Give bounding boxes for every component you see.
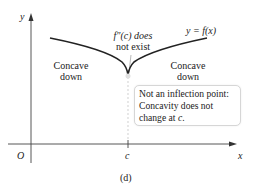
annotation-line1: f″(c) does <box>105 30 161 41</box>
right-concavity-line1: Concave <box>163 60 213 71</box>
figure-caption: (d) <box>120 172 132 183</box>
left-concavity-line1: Concave <box>46 60 96 71</box>
left-concavity-label: Concave down <box>46 60 96 82</box>
origin-label: O <box>17 150 24 161</box>
x-axis-arrow-icon <box>229 142 237 147</box>
annotation-line2: not exist <box>105 41 161 52</box>
right-concavity-label: Concave down <box>163 60 213 82</box>
note-line3-prefix: change at <box>139 112 178 123</box>
note-line3: change at c. <box>139 112 229 124</box>
note-line2: Concavity does not <box>139 100 229 112</box>
note-line3-suffix: . <box>182 112 184 123</box>
inflection-note-box: Not an inflection point: Concavity does … <box>134 85 241 126</box>
c-tick-label: c <box>125 150 129 161</box>
curve-label: y = f(x) <box>186 25 216 36</box>
annotation-fpp-not-exist: f″(c) does not exist <box>105 30 161 52</box>
left-concavity-line2: down <box>46 71 96 82</box>
right-concavity-line2: down <box>163 71 213 82</box>
x-axis-label: x <box>238 150 242 161</box>
y-axis-arrow-icon <box>29 13 34 21</box>
note-line1: Not an inflection point: <box>139 88 229 100</box>
cusp-point <box>126 74 131 79</box>
y-axis-label: y <box>20 11 24 22</box>
